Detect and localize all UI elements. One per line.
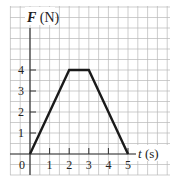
force-time-chart: 1234012345F (N)t (s) (0, 0, 175, 181)
y-axis-label: F (N) (26, 10, 60, 26)
x-tick-label: 1 (47, 158, 53, 172)
chart-canvas: 1234012345F (N)t (s) (0, 0, 175, 181)
y-tick-label: 3 (18, 84, 24, 98)
x-tick-label: 3 (86, 158, 92, 172)
y-tick-label: 1 (18, 126, 24, 140)
x-tick-label: 4 (105, 158, 111, 172)
y-tick-label: 2 (18, 105, 24, 119)
y-tick-label: 4 (18, 63, 24, 77)
x-tick-label: 0 (19, 158, 25, 172)
x-tick-label: 2 (66, 158, 72, 172)
x-axis-label: t (s) (138, 146, 159, 161)
x-tick-label: 5 (125, 158, 131, 172)
